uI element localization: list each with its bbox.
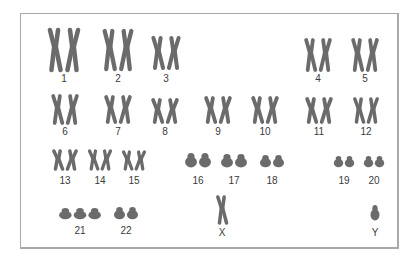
chromosome-4 xyxy=(306,40,330,70)
chromosome-label-4: 4 xyxy=(315,74,321,84)
chromosome-18 xyxy=(260,155,284,167)
chromosome-20 xyxy=(364,156,384,167)
chromosome-y xyxy=(371,205,380,220)
chromosome-10 xyxy=(253,98,277,122)
chromosome-label-x: X xyxy=(219,228,226,238)
chromosome-label-18: 18 xyxy=(266,176,277,186)
chromosome-label-10: 10 xyxy=(259,127,270,137)
chromosome-label-8: 8 xyxy=(162,127,168,137)
chromosome-22 xyxy=(114,207,138,219)
chromosome-2 xyxy=(105,31,132,69)
chromosome-label-19: 19 xyxy=(338,176,349,186)
chromosome-19 xyxy=(334,156,354,167)
chromosome-label-22: 22 xyxy=(120,226,131,236)
chromosome-x xyxy=(218,197,227,223)
chromosome-16 xyxy=(185,153,211,167)
chromosome-label-9: 9 xyxy=(215,127,221,137)
chromosome-17 xyxy=(221,154,247,167)
chromosome-9 xyxy=(206,98,230,122)
chromosome-12 xyxy=(355,99,377,122)
chromosome-label-5: 5 xyxy=(362,74,368,84)
chromosome-1 xyxy=(50,30,78,70)
chromosome-label-16: 16 xyxy=(192,176,203,186)
chromosome-5 xyxy=(353,40,377,70)
chromosome-13 xyxy=(54,151,76,169)
chromosome-label-21: 21 xyxy=(74,226,85,236)
chromosome-label-7: 7 xyxy=(115,127,121,137)
chromosome-14 xyxy=(90,151,111,169)
chromosome-11 xyxy=(307,99,331,122)
chromosome-6 xyxy=(53,96,77,123)
chromosome-label-11: 11 xyxy=(314,127,324,137)
chromosome-15 xyxy=(124,152,145,169)
chromosome-label-15: 15 xyxy=(128,176,139,186)
chromosome-label-13: 13 xyxy=(59,176,70,186)
chromosome-label-17: 17 xyxy=(228,176,239,186)
chromosome-label-20: 20 xyxy=(368,176,379,186)
chromosome-7 xyxy=(106,97,130,122)
chromosome-label-6: 6 xyxy=(62,127,68,137)
chromosome-label-2: 2 xyxy=(115,74,121,84)
chromosome-21 xyxy=(59,208,101,219)
chromosome-8 xyxy=(153,100,177,122)
chromosome-label-3: 3 xyxy=(163,74,169,84)
chromosome-label-1: 1 xyxy=(61,74,67,84)
chromosome-label-14: 14 xyxy=(94,176,105,186)
chromosome-label-y: Y xyxy=(372,228,379,238)
chromosome-3 xyxy=(153,38,178,68)
chromosome-label-12: 12 xyxy=(360,127,371,137)
